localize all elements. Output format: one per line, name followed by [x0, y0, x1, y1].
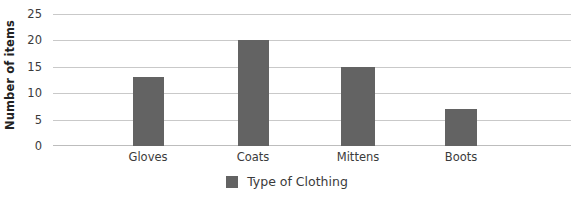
gridline-10 — [53, 93, 571, 94]
y-tick-label-5: 5 — [0, 113, 48, 127]
bar-coats[interactable] — [238, 40, 269, 146]
chart-legend: Type of Clothing — [0, 174, 574, 189]
bar-boots[interactable] — [445, 109, 477, 146]
y-tick-label-15: 15 — [0, 60, 48, 74]
gridline-15 — [53, 67, 571, 68]
gridline-20 — [53, 40, 571, 41]
gridline-25 — [53, 14, 571, 15]
x-tick-label-mittens: Mittens — [337, 150, 380, 164]
square-swatch-icon — [226, 176, 238, 188]
gridline-0-baseline — [53, 145, 571, 146]
y-tick-label-20: 20 — [0, 33, 48, 47]
plot-area — [53, 14, 571, 146]
bar-mittens[interactable] — [341, 67, 375, 146]
legend-entry-label[interactable]: Type of Clothing — [247, 174, 348, 189]
bar-gloves[interactable] — [133, 77, 164, 146]
y-tick-label-25: 25 — [0, 7, 48, 21]
x-tick-label-boots: Boots — [445, 150, 477, 164]
x-tick-label-gloves: Gloves — [128, 150, 167, 164]
gridline-5 — [53, 120, 571, 121]
y-tick-label-10: 10 — [0, 86, 48, 100]
bar-chart: Number of items 25 20 15 10 5 0 Gloves C… — [0, 0, 574, 197]
y-tick-label-0: 0 — [0, 139, 48, 153]
x-tick-label-coats: Coats — [237, 150, 270, 164]
y-axis-tick-labels: 25 20 15 10 5 0 — [0, 0, 48, 160]
